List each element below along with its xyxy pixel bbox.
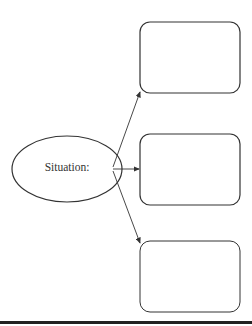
- arrow-to-bottom: [113, 171, 140, 243]
- outcome-box-top: [140, 22, 240, 93]
- situation-label: Situation:: [35, 161, 99, 173]
- outcome-box-middle: [140, 134, 240, 205]
- arrow-to-top: [113, 92, 140, 167]
- bottom-rule: [0, 321, 252, 324]
- outcome-box-bottom: [140, 241, 240, 312]
